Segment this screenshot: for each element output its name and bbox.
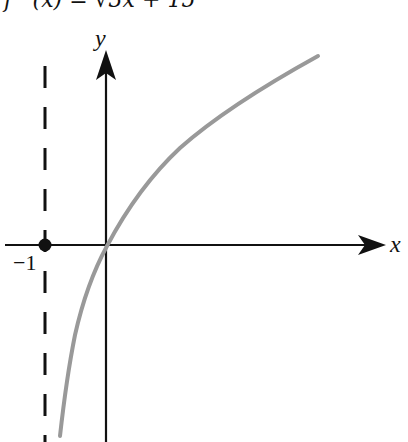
asymptote-point <box>39 239 52 252</box>
y-axis-label: y <box>93 25 106 51</box>
asymptote-tick-label: −1 <box>13 250 36 275</box>
x-axis-label: x <box>389 231 401 257</box>
graph: y x −1 <box>0 0 408 442</box>
